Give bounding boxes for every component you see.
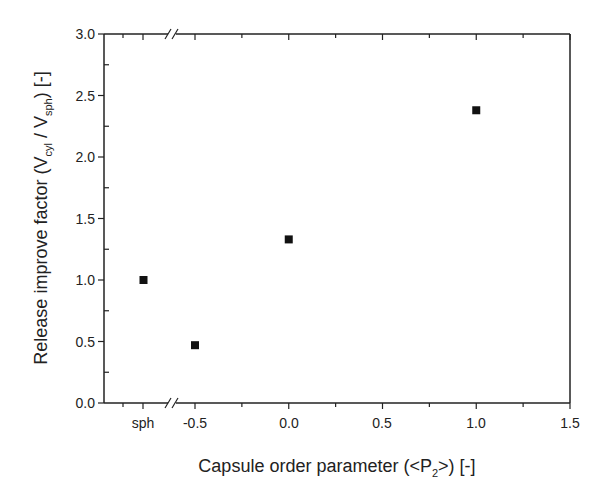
y-tick-labels: 0.00.51.01.52.02.53.0 [76, 26, 96, 411]
x-tick-label: 0.0 [279, 415, 299, 431]
x-tick-label: 0.5 [372, 415, 392, 431]
x-tick-label: 1.0 [466, 415, 486, 431]
y-tick-label: 1.0 [76, 272, 96, 288]
scatter-chart: 0.00.51.01.52.02.53.0 sph-0.50.00.51.01.… [0, 0, 603, 496]
y-tick-label: 3.0 [76, 26, 96, 42]
data-point-marker [472, 106, 480, 114]
y-tick-label: 0.0 [76, 395, 96, 411]
y-tick-label: 2.5 [76, 88, 96, 104]
x-tick-labels: sph-0.50.00.51.01.5 [132, 415, 580, 431]
x-tick-label: 1.5 [560, 415, 580, 431]
x-tick-label: -0.5 [183, 415, 207, 431]
data-point-marker [285, 235, 293, 243]
x-tick-label: sph [132, 415, 155, 431]
y-tick-label: 1.5 [76, 211, 96, 227]
y-tick-label: 0.5 [76, 334, 96, 350]
x-axis-title: Capsule order parameter (<P2>) [-] [198, 456, 475, 479]
plot-frame [104, 29, 570, 408]
data-point-marker [140, 276, 148, 284]
data-point-marker [191, 341, 199, 349]
data-points [140, 106, 481, 349]
axis-ticks [98, 34, 570, 409]
y-axis-title: Release improve factor (Vcyl / Vsph) [-] [31, 71, 54, 364]
y-tick-label: 2.0 [76, 149, 96, 165]
